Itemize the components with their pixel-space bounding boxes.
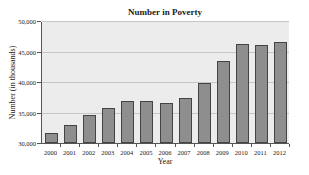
y-tick-label: 50,000	[0, 18, 36, 25]
plot-area	[41, 22, 289, 144]
x-tick-label: 2010	[232, 149, 251, 156]
x-tick-mark	[232, 144, 233, 147]
x-tick-label: 2002	[79, 149, 98, 156]
bar-2004	[121, 101, 134, 143]
x-tick-mark	[98, 144, 99, 147]
y-tick-label: 35,000	[0, 109, 36, 116]
x-tick-label: 2003	[98, 149, 117, 156]
x-tick-mark	[289, 144, 290, 147]
bar-2012	[274, 42, 287, 143]
gridline	[42, 21, 289, 22]
x-tick-label: 2000	[41, 149, 60, 156]
x-tick-mark	[213, 144, 214, 147]
bar-2010	[236, 44, 249, 143]
x-tick-mark	[270, 144, 271, 147]
bar-2011	[255, 45, 268, 143]
y-tick-label: 30,000	[0, 140, 36, 147]
x-tick-label: 2005	[136, 149, 155, 156]
gridline	[42, 52, 289, 53]
bar-2006	[160, 103, 173, 143]
chart-title: Number in Poverty	[41, 7, 289, 17]
x-tick-mark	[194, 144, 195, 147]
bar-2002	[83, 115, 96, 143]
x-tick-mark	[251, 144, 252, 147]
bar-2007	[179, 98, 192, 143]
bar-2005	[140, 101, 153, 143]
y-tick-label: 45,000	[0, 48, 36, 55]
bar-2000	[45, 133, 58, 143]
bar-2008	[198, 83, 211, 143]
bar-2003	[102, 108, 115, 143]
x-tick-mark	[155, 144, 156, 147]
x-axis-label: Year	[41, 157, 289, 166]
x-tick-mark	[117, 144, 118, 147]
x-tick-label: 2007	[175, 149, 194, 156]
x-tick-label: 2001	[60, 149, 79, 156]
x-tick-mark	[136, 144, 137, 147]
y-tick-label: 40,000	[0, 79, 36, 86]
x-tick-label: 2009	[213, 149, 232, 156]
bar-2001	[64, 125, 77, 143]
x-tick-mark	[175, 144, 176, 147]
x-tick-label: 2008	[194, 149, 213, 156]
x-tick-label: 2004	[117, 149, 136, 156]
x-tick-mark	[79, 144, 80, 147]
x-tick-label: 2012	[270, 149, 289, 156]
x-tick-label: 2006	[155, 149, 174, 156]
bar-2009	[217, 61, 230, 143]
x-tick-label: 2011	[251, 149, 270, 156]
x-tick-mark	[60, 144, 61, 147]
gridline	[42, 82, 289, 83]
